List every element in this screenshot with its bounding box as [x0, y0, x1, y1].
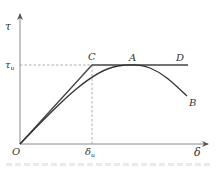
cropped-caption: [6, 163, 213, 166]
point-C-label: C: [88, 51, 96, 62]
actual-curve-OAB: [20, 65, 187, 144]
point-A-label: A: [128, 52, 136, 63]
point-B-label: B: [188, 97, 196, 108]
tau-u-label: τu: [5, 59, 15, 71]
idealized-curve-OCD: [20, 65, 188, 144]
shear-slip-diagram: τ τu O δu δ C A D B: [0, 0, 219, 170]
origin-label: O: [12, 146, 20, 157]
delta-u-label: δu: [85, 146, 95, 158]
y-axis-label: τ: [5, 20, 12, 33]
x-axis-label: δ: [194, 146, 201, 159]
point-D-label: D: [175, 52, 184, 63]
